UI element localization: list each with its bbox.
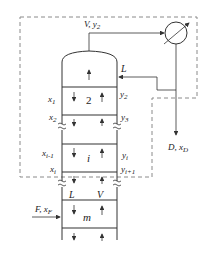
reflux-label: L: [120, 63, 127, 74]
vapor-line: [89, 33, 164, 51]
x2-label: x2: [48, 112, 57, 124]
yi-plus-1-label: yi+1: [120, 164, 135, 176]
feed-label: F, xF: [34, 204, 53, 216]
distillation-diagram: V, y2 L D, xD 2 x1 y2 x2 y3 xi-1 i yi xi…: [0, 0, 210, 255]
feed-plate-V-label: V: [97, 189, 105, 200]
feed-plate-L-label: L: [68, 189, 75, 200]
plate-i-label: i: [87, 152, 90, 164]
condenser-icon: [164, 22, 189, 44]
y2-label: y2: [119, 89, 128, 101]
vapor-top-label: V, y2: [84, 19, 101, 31]
distillate-label: D, xD: [167, 142, 188, 154]
plate-m-label: m: [83, 211, 91, 223]
xi-label: xi: [49, 164, 56, 176]
y3-label: y3: [120, 112, 129, 124]
column-dome: [62, 51, 117, 62]
reflux-line: [119, 77, 176, 90]
plate-2-number: 2: [86, 94, 92, 106]
x1-label: x1: [47, 94, 56, 106]
xi-minus-1-label: xi-1: [41, 148, 54, 160]
yi-label: yi: [121, 150, 128, 162]
